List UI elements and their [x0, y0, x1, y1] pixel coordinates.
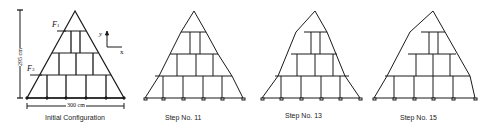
panel-step13-structure	[261, 11, 362, 100]
force-f3-label: F3	[27, 64, 34, 73]
panel-initial-structure	[17, 10, 125, 109]
panel-step11-structure	[144, 11, 245, 100]
height-dimension-label: 295 cm	[17, 48, 23, 66]
y-axis-label: y	[99, 30, 102, 38]
caption-step15: Step No. 15	[400, 114, 437, 121]
force-f1-label: F1	[52, 20, 59, 29]
caption-step11: Step No. 11	[165, 114, 201, 121]
panel-step15-structure	[373, 11, 477, 100]
caption-initial: Initial Configuration	[45, 114, 105, 121]
x-axis-label: x	[120, 48, 124, 56]
caption-step13: Step No. 13	[285, 112, 322, 119]
diagram-canvas	[0, 0, 489, 132]
width-dimension-label: 300 cm	[66, 102, 86, 108]
